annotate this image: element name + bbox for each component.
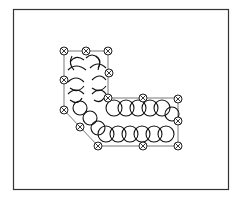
node-marker-icon [174, 142, 182, 150]
node-marker-icon [76, 123, 84, 131]
node-marker-icon [174, 117, 182, 125]
node-marker-icon [60, 106, 68, 114]
node-marker-icon [105, 69, 113, 77]
node-marker-icon [94, 142, 102, 150]
node-marker-icon [104, 47, 112, 55]
node-marker-icon [60, 76, 68, 84]
stitch-diagram [0, 0, 241, 200]
diagram-frame [14, 10, 229, 190]
node-marker-icon [104, 94, 112, 102]
node-marker-icon [82, 47, 90, 55]
node-marker-icon [60, 47, 68, 55]
node-marker-icon [139, 94, 147, 102]
node-marker-icon [139, 142, 147, 150]
node-marker-icon [174, 95, 182, 103]
